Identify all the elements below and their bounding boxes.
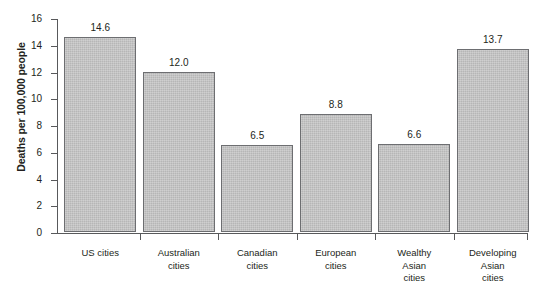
plot-area: 1614121086420 14.612.06.58.86.613.7 US c… — [57, 19, 528, 233]
x-axis-line — [57, 233, 528, 234]
y-tick-label: 2 — [36, 199, 42, 212]
bar: 6.5 — [221, 145, 293, 232]
y-tick: 10 — [51, 99, 57, 100]
bar-value-label: 8.8 — [329, 99, 343, 111]
x-tick — [454, 234, 455, 240]
y-tick: 0 — [51, 233, 57, 234]
y-tick: 16 — [51, 19, 57, 20]
bar: 14.6 — [64, 37, 136, 232]
y-tick-label: 14 — [31, 39, 42, 52]
y-tick: 8 — [51, 126, 57, 127]
y-tick-label: 6 — [36, 146, 42, 159]
x-category-label: Developing Asian cities — [454, 247, 533, 285]
y-tick-label: 4 — [36, 173, 42, 186]
bar-chart: Deaths per 100,000 people 1614121086420 … — [0, 0, 538, 285]
y-tick: 12 — [51, 73, 57, 74]
y-tick-label: 16 — [31, 12, 42, 25]
bar-value-label: 12.0 — [169, 57, 188, 69]
x-tick — [375, 234, 376, 240]
x-category-label: European cities — [297, 247, 376, 272]
x-tick — [527, 234, 528, 240]
x-tick — [140, 234, 141, 240]
x-category-label: Australian cities — [140, 247, 219, 272]
x-category-label: Wealthy Asian cities — [375, 247, 454, 285]
y-tick: 14 — [51, 46, 57, 47]
y-axis-line — [57, 19, 58, 234]
y-tick: 6 — [51, 153, 57, 154]
x-tick — [297, 234, 298, 240]
y-axis-title: Deaths per 100,000 people — [14, 0, 28, 227]
y-tick-label: 0 — [36, 226, 42, 239]
y-tick: 4 — [51, 180, 57, 181]
bar: 8.8 — [300, 114, 372, 232]
bar-value-label: 6.6 — [407, 129, 421, 141]
x-category-label: Canadian cities — [218, 247, 297, 272]
y-tick-label: 12 — [31, 66, 42, 79]
y-tick-label: 10 — [31, 92, 42, 105]
y-tick: 2 — [51, 206, 57, 207]
bar-value-label: 13.7 — [483, 34, 502, 46]
bar-value-label: 6.5 — [250, 130, 264, 142]
bar: 13.7 — [457, 49, 529, 232]
bar: 12.0 — [143, 72, 215, 233]
y-tick-label: 8 — [36, 119, 42, 132]
x-category-label: US cities — [61, 247, 140, 260]
x-tick — [218, 234, 219, 240]
bar-value-label: 14.6 — [91, 22, 110, 34]
bar: 6.6 — [378, 144, 450, 232]
